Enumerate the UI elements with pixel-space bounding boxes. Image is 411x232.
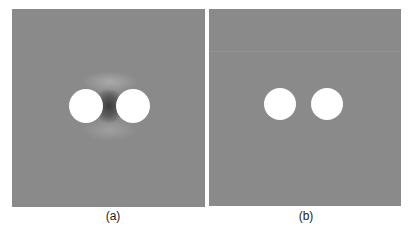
scan-line (209, 51, 401, 52)
panel-b-label: (b) (286, 209, 326, 223)
hole-right (116, 89, 150, 123)
panel-a-label: (a) (93, 209, 133, 223)
panel-a-image (12, 9, 205, 207)
hole-left (69, 89, 103, 123)
hole-right (311, 88, 343, 120)
hole-left (264, 88, 296, 120)
panel-b-image (209, 9, 401, 206)
